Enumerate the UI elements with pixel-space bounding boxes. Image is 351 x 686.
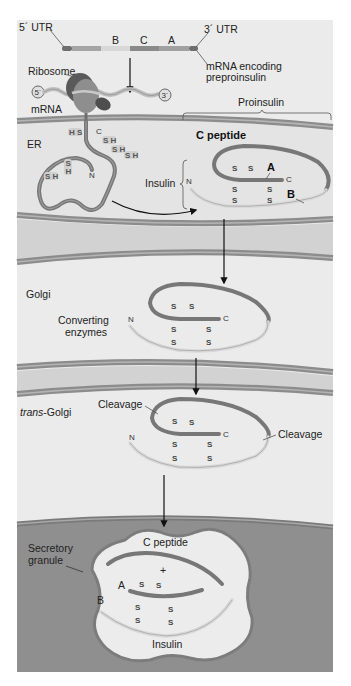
mrna-5-end-label: 5´ [35,88,42,97]
mrna-caption-line2: preproinsulin [206,71,266,83]
trans-golgi-disulfide-s: S [172,454,178,463]
nascent-n-label: N [89,171,95,180]
sh-group-h: H [66,167,72,176]
er-disulfide-s: S [232,164,238,173]
cleavage-left-label: Cleavage [98,398,143,410]
trans-golgi-label-rest: -Golgi [43,406,71,418]
segment-c-label: C [140,34,148,46]
trans-golgi-n-label: N [129,433,135,442]
sh-group-label: S H [125,151,139,160]
granule-plus-sign: + [160,564,166,576]
granule-disulfide-s: S [168,605,174,614]
trans-golgi-disulfide-s: S [172,440,178,449]
mrna-3-end-label: 3´ [162,91,169,100]
insulin-label: Insulin [145,177,176,189]
er-disulfide-s: S [232,196,238,205]
golgi-label: Golgi [26,288,51,300]
er-chain-b-label: B [287,188,295,200]
insulin-synthesis-diagram: 5´ UTR 3´ UTR B C A mRNA encoding prepro… [0,0,351,686]
enzymes-line1: Converting [58,314,109,326]
trans-golgi-disulfide-s: S [207,440,213,449]
enzymes-line2: enzymes [65,326,107,338]
a-segment [159,46,189,51]
golgi-disulfide-s: S [206,338,212,347]
ribosome-label: Ribosome [28,65,75,77]
trans-golgi-disulfide-s: S [207,454,213,463]
trans-golgi-label: trans-Golgi [20,406,71,418]
er-n-label: N [186,177,192,186]
granule-label-line2: granule [28,554,63,566]
sh-group-label: S H [112,145,126,154]
granule-chain-b-label: B [97,594,104,606]
c-peptide-label: C peptide [196,129,246,141]
golgi-disulfide-s: S [206,325,212,334]
er-label: ER [27,138,42,150]
trans-golgi-c-label: C [223,430,229,439]
prepro-segment [72,46,101,51]
golgi-c-label: C [223,314,229,323]
segment-b-label: B [112,34,119,46]
golgi-disulfide-s: S [171,325,177,334]
utr3-label: 3´ UTR [204,23,238,35]
sh-group-label: H S [69,128,83,137]
trans-golgi-disulfide-s: S [172,417,178,426]
trans-golgi-disulfide-s: S [189,418,195,427]
granule-chain-a-label: A [118,579,125,591]
golgi-disulfide-s: S [171,302,177,311]
granule-insulin-label: Insulin [152,638,183,650]
ribosome-large-subunit [73,79,99,113]
sh-group-label: S H [103,136,117,145]
granule-disulfide-s: S [139,580,145,589]
cleavage-right-label: Cleavage [278,428,323,440]
er-disulfide-s: S [267,185,273,194]
b-segment [101,46,130,51]
er-c-label: C [286,175,292,184]
granule-disulfide-s: S [156,581,162,590]
er-disulfide-s: S [248,164,254,173]
nascent-c-label: C [96,127,102,136]
proinsulin-label: Proinsulin [238,96,284,108]
granule-disulfide-s: S [135,616,141,625]
granule-label-line1: Secretory [28,542,74,554]
granule-c-peptide-label: C peptide [143,536,188,548]
golgi-disulfide-s: S [171,338,177,347]
er-disulfide-s: S [232,185,238,194]
segment-a-label: A [168,34,175,46]
granule-disulfide-s: S [168,618,174,627]
granule-disulfide-s: S [135,603,141,612]
er-disulfide-s: S [267,196,273,205]
er-chain-a-label: A [267,161,275,173]
utr5-label: 5´ UTR [19,21,53,33]
c-segment [130,46,159,51]
golgi-disulfide-s: S [189,302,195,311]
mrna-label: mRNA [31,103,62,115]
trans-golgi-label-italic: trans [20,406,44,418]
golgi-n-label: N [128,315,134,324]
sh-group-label: S H [45,172,59,181]
